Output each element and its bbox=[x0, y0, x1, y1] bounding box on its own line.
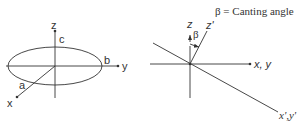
y-axis-label: y bbox=[122, 60, 128, 72]
left-panel-spheroid: z c b y a x bbox=[6, 19, 128, 109]
z-prime-axis-label: z' bbox=[205, 19, 215, 31]
beta-label: β bbox=[193, 28, 199, 40]
right-panel-canted-frame: z β z' x, y x',y' β = Canting angle bbox=[150, 5, 297, 121]
c-semi-axis-label: c bbox=[59, 33, 65, 45]
beta-angle-arc bbox=[190, 44, 199, 47]
xy-prime-axis bbox=[153, 43, 278, 112]
z-axis-label-right: z bbox=[186, 18, 193, 30]
b-semi-axis-label: b bbox=[104, 54, 110, 66]
a-semi-axis-label: a bbox=[19, 79, 26, 91]
xy-prime-axis-label: x',y' bbox=[278, 109, 297, 121]
z-axis-label: z bbox=[51, 19, 57, 31]
canting-angle-legend: β = Canting angle bbox=[215, 5, 294, 17]
xy-axis-label: x, y bbox=[253, 58, 273, 70]
x-axis-label: x bbox=[7, 97, 13, 109]
canting-angle-diagram: z c b y a x z β z' x, y x',y' β = Cantin… bbox=[0, 0, 306, 125]
origin-point bbox=[189, 63, 192, 66]
